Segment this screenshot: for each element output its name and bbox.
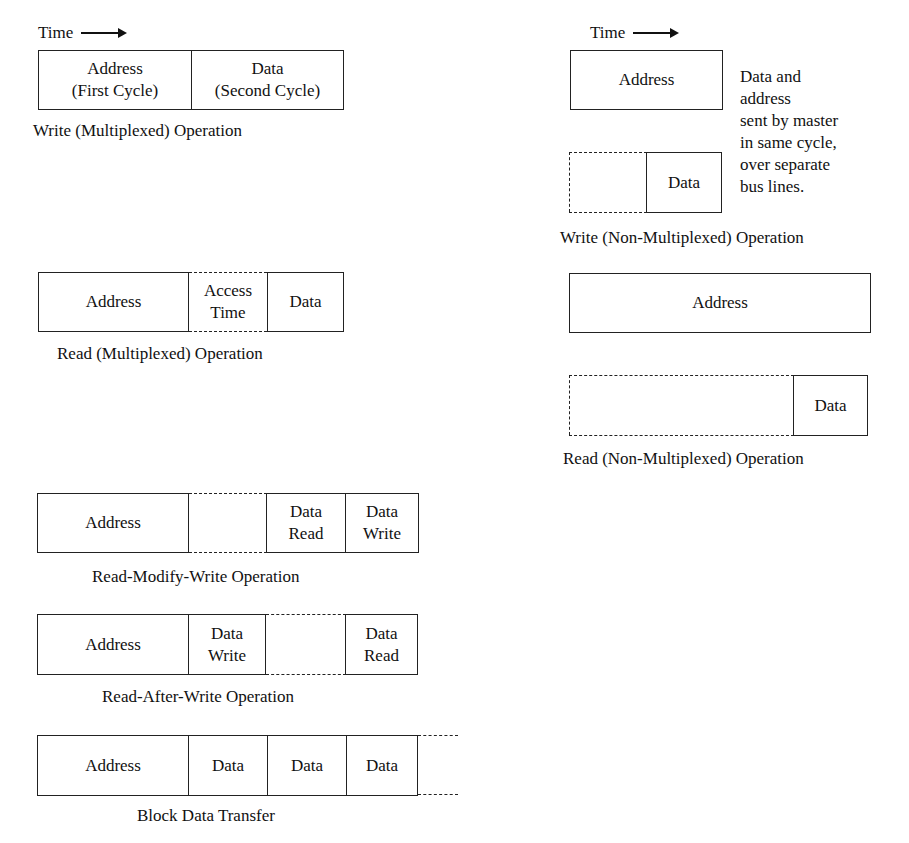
time-label: Time: [590, 23, 625, 43]
block-address-cell: Address: [38, 736, 188, 795]
read-nonmux-address-cell: Address: [569, 273, 871, 333]
dashed-edge: [569, 152, 570, 212]
cell-label: Write: [208, 646, 246, 665]
cell-label: Address: [619, 69, 675, 91]
dashed-edge: [569, 152, 647, 153]
cell-label: Address: [85, 634, 141, 656]
write-nonmux-address-cell: Address: [570, 50, 723, 110]
cell-label: Data: [668, 172, 700, 194]
note-line: address: [740, 89, 791, 108]
note-line: in same cycle,: [740, 133, 837, 152]
write-mux-timeline: Address(First Cycle) Data(Second Cycle): [38, 50, 344, 110]
cell-label: Data: [211, 624, 243, 643]
dashed-edge: [569, 212, 647, 213]
block-caption: Block Data Transfer: [137, 806, 275, 826]
write-nonmux-caption: Write (Non-Multiplexed) Operation: [560, 228, 804, 248]
read-nonmux-data-cell: Data: [793, 375, 868, 436]
note-line: Data and: [740, 67, 801, 86]
block-data-cell: Data: [346, 736, 417, 795]
continuation-dashed-edge: [418, 794, 458, 795]
cell-label: Address: [692, 292, 748, 314]
data-write-cell: DataWrite: [345, 494, 418, 552]
write-nonmux-note: Data and address sent by master in same …: [740, 66, 838, 198]
time-axis-label-left: Time: [38, 23, 125, 43]
data-write-cell: DataWrite: [188, 615, 265, 674]
cell-label: Read: [364, 646, 399, 665]
cell-label: Access: [204, 281, 252, 300]
access-time-cell: AccessTime: [189, 272, 267, 332]
data-second-cycle-cell: Data(Second Cycle): [191, 51, 343, 109]
dashed-edge: [569, 375, 794, 376]
raw-address-write-group: Address DataWrite: [37, 614, 266, 675]
note-line: over separate: [740, 155, 830, 174]
cell-label: Data: [366, 755, 398, 777]
cell-label: Address: [87, 59, 143, 78]
raw-address-cell: Address: [38, 615, 188, 674]
write-mux-caption: Write (Multiplexed) Operation: [33, 121, 242, 141]
raw-caption: Read-After-Write Operation: [102, 687, 294, 707]
cell-label: Data: [365, 624, 397, 643]
cell-label: Data: [251, 59, 283, 78]
rmw-caption: Read-Modify-Write Operation: [92, 567, 300, 587]
cell-label: Data: [212, 755, 244, 777]
time-axis-label-right: Time: [590, 23, 677, 43]
raw-data-read-cell: DataRead: [345, 614, 418, 675]
cell-label: Read: [289, 524, 324, 543]
address-first-cycle-cell: Address(First Cycle): [39, 51, 191, 109]
write-nonmux-data-cell: Data: [646, 152, 722, 213]
read-mux-address-cell: Address: [38, 272, 189, 332]
dashed-edge: [569, 435, 794, 436]
cell-label: Data: [289, 291, 321, 313]
dashed-edge: [189, 552, 267, 553]
note-line: sent by master: [740, 111, 838, 130]
cell-label: Address: [85, 512, 141, 534]
rmw-data-group: DataRead DataWrite: [266, 493, 419, 553]
time-label: Time: [38, 23, 73, 43]
cell-sublabel: (First Cycle): [72, 81, 158, 100]
read-nonmux-caption: Read (Non-Multiplexed) Operation: [563, 449, 804, 469]
continuation-dashed-edge: [418, 735, 458, 736]
block-transfer-timeline: Address Data Data Data: [37, 735, 418, 796]
time-arrow-icon: [633, 32, 677, 34]
cell-label: Data: [291, 755, 323, 777]
cell-label: Data: [814, 395, 846, 417]
dashed-edge: [266, 674, 346, 675]
note-line: bus lines.: [740, 177, 804, 196]
cell-label: Data: [290, 502, 322, 521]
block-data-cell: Data: [267, 736, 346, 795]
dashed-edge: [569, 375, 570, 435]
dashed-edge: [189, 493, 267, 494]
cell-label: Address: [85, 755, 141, 777]
cell-label: Time: [210, 303, 245, 322]
rmw-address-cell: Address: [37, 493, 189, 553]
data-read-cell: DataRead: [267, 494, 345, 552]
cell-label: Address: [86, 291, 142, 313]
block-data-cell: Data: [188, 736, 267, 795]
cell-label: Write: [363, 524, 401, 543]
time-arrow-icon: [81, 32, 125, 34]
cell-label: Data: [366, 502, 398, 521]
cell-sublabel: (Second Cycle): [215, 81, 320, 100]
read-mux-caption: Read (Multiplexed) Operation: [57, 344, 263, 364]
dashed-edge: [266, 614, 346, 615]
read-mux-data-cell: Data: [267, 272, 344, 332]
